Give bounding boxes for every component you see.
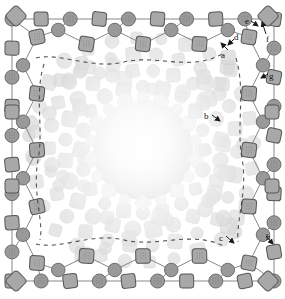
node-square bbox=[5, 41, 19, 55]
satellite-square bbox=[5, 179, 19, 193]
center-fade-veil bbox=[25, 32, 261, 268]
node-square bbox=[5, 215, 20, 230]
label-g: g bbox=[269, 72, 274, 81]
label-c: c bbox=[219, 234, 223, 243]
label-arrow-e bbox=[251, 21, 258, 26]
label-b: b bbox=[204, 112, 209, 121]
node-circle bbox=[16, 228, 30, 242]
node-square bbox=[34, 12, 48, 26]
node-circle bbox=[52, 23, 66, 37]
node-circle bbox=[221, 263, 235, 277]
node-circle bbox=[221, 23, 235, 37]
node-square bbox=[121, 273, 136, 288]
node-circle bbox=[256, 59, 270, 73]
node-square bbox=[237, 273, 253, 289]
satellite-square bbox=[5, 105, 19, 119]
node-circle bbox=[108, 263, 122, 277]
node-circle bbox=[52, 263, 66, 277]
lattice-figure: abcdefgh bbox=[0, 0, 285, 299]
satellite-square bbox=[265, 179, 279, 193]
node-square bbox=[180, 274, 194, 288]
corner-diamond bbox=[257, 270, 280, 293]
node-square bbox=[62, 273, 78, 289]
node-square bbox=[266, 244, 282, 260]
node-square bbox=[150, 12, 165, 27]
label-a: a bbox=[221, 51, 225, 60]
satellite-square bbox=[265, 105, 279, 119]
node-circle bbox=[165, 23, 179, 37]
node-square bbox=[208, 12, 223, 27]
node-circle bbox=[16, 59, 30, 73]
label-h: h bbox=[266, 233, 271, 242]
label-f: f bbox=[266, 35, 269, 44]
node-square bbox=[4, 157, 19, 172]
corner-diamond bbox=[5, 270, 28, 293]
node-square bbox=[266, 127, 283, 144]
node-circle bbox=[165, 263, 179, 277]
label-arrow-a bbox=[221, 43, 228, 50]
node-circle bbox=[108, 23, 122, 37]
node-square bbox=[92, 11, 107, 26]
lattice-canvas bbox=[0, 0, 285, 299]
label-e: e bbox=[245, 17, 249, 26]
label-d: d bbox=[234, 33, 239, 42]
